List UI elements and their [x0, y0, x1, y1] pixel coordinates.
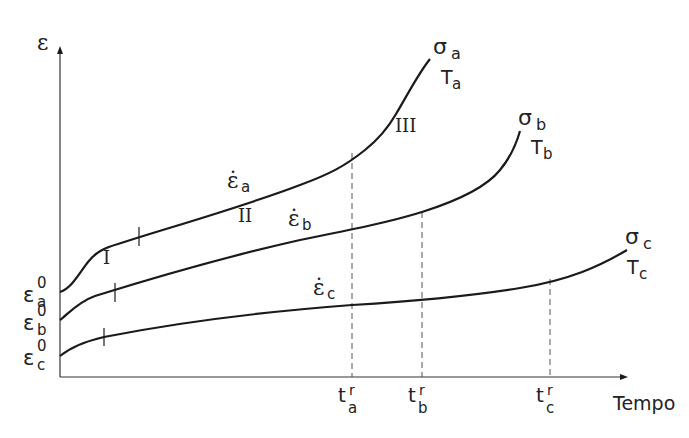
svg-text:c: c: [37, 356, 45, 374]
stage-label-primary: I: [103, 247, 110, 268]
svg-text:b: b: [418, 399, 428, 417]
svg-text:a: a: [241, 178, 250, 196]
svg-text:b: b: [536, 115, 546, 134]
svg-text:ε̇: ε̇: [313, 275, 324, 300]
svg-text:σ: σ: [625, 224, 639, 249]
creep-curve-diagram: ε Tempo I II III ε a 0 ε b 0 ε c 0 ε̇ a …: [0, 0, 689, 438]
svg-text:b: b: [302, 216, 312, 234]
svg-text:T: T: [626, 256, 639, 278]
strain-rate-c: ε̇ c: [313, 275, 335, 303]
svg-text:a: a: [452, 75, 461, 93]
svg-text:ε: ε: [23, 346, 34, 370]
svg-text:r: r: [419, 382, 425, 398]
stress-temp-b: σ b T b: [518, 105, 553, 163]
x-axis-label: Tempo: [612, 392, 675, 414]
svg-text:ε: ε: [23, 311, 34, 335]
stress-temp-a: σ a T a: [433, 34, 461, 93]
svg-text:T: T: [530, 136, 543, 158]
svg-text:ε̇: ε̇: [227, 168, 238, 193]
svg-text:c: c: [327, 285, 335, 303]
strain-rate-b: ε̇ b: [288, 206, 312, 234]
svg-text:0: 0: [37, 337, 47, 355]
rupture-time-b: t b r: [408, 382, 428, 417]
svg-text:r: r: [349, 382, 355, 398]
svg-text:c: c: [546, 399, 554, 417]
initial-strain-b: ε b 0: [23, 302, 47, 339]
stage-label-secondary: II: [238, 205, 252, 226]
svg-text:c: c: [639, 265, 647, 283]
creep-curve-a: [60, 59, 430, 292]
svg-text:t: t: [408, 383, 416, 407]
svg-text:b: b: [543, 145, 553, 163]
svg-text:σ: σ: [518, 105, 532, 130]
svg-text:r: r: [547, 382, 553, 398]
svg-text:σ: σ: [433, 34, 447, 59]
creep-curve-c: [60, 250, 627, 356]
svg-text:t: t: [338, 383, 346, 407]
svg-text:a: a: [348, 399, 357, 417]
stage-label-tertiary: III: [395, 115, 416, 136]
svg-text:a: a: [451, 44, 461, 63]
y-axis-label: ε: [37, 30, 48, 55]
svg-text:c: c: [643, 234, 652, 253]
svg-text:0: 0: [37, 274, 47, 292]
strain-rate-a: ε̇ a: [227, 168, 250, 196]
svg-text:ε̇: ε̇: [288, 206, 299, 231]
rupture-time-a: t a r: [338, 382, 357, 417]
svg-text:t: t: [536, 383, 544, 407]
rupture-time-c: t c r: [536, 382, 554, 417]
svg-text:0: 0: [37, 302, 47, 320]
svg-text:ε: ε: [23, 283, 34, 307]
initial-strain-c: ε c 0: [23, 337, 47, 374]
stress-temp-c: σ c T c: [625, 224, 652, 283]
